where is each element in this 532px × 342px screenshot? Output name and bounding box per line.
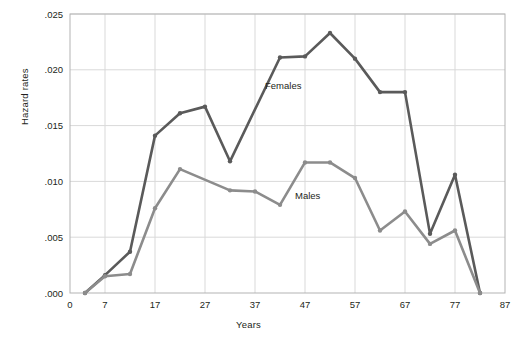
- svg-text:57: 57: [350, 299, 361, 310]
- svg-text:77: 77: [450, 299, 461, 310]
- y-tick-labels: .000.005.010.015.020.025: [45, 9, 64, 299]
- svg-text:.025: .025: [45, 9, 64, 20]
- x-tick-labels: 071727374757677787: [67, 299, 510, 310]
- plot-frame: [70, 14, 505, 293]
- svg-text:.010: .010: [45, 176, 64, 187]
- svg-text:7: 7: [102, 299, 107, 310]
- grid-lines: [70, 14, 505, 293]
- data-series: [83, 31, 482, 295]
- svg-text:.015: .015: [45, 120, 64, 131]
- svg-text:67: 67: [400, 299, 411, 310]
- svg-text:47: 47: [300, 299, 311, 310]
- svg-text:.005: .005: [45, 232, 64, 243]
- svg-text:.020: .020: [45, 64, 64, 75]
- chart-plot: 071727374757677787 .000.005.010.015.020.…: [0, 0, 532, 342]
- svg-text:17: 17: [150, 299, 161, 310]
- svg-text:0: 0: [67, 299, 72, 310]
- svg-text:37: 37: [250, 299, 261, 310]
- series-label-females: Females: [265, 80, 302, 91]
- y-axis-title: Hazard rates: [19, 68, 30, 125]
- x-axis-title: Years: [236, 319, 261, 330]
- hazard-rates-chart-figure: 071727374757677787 .000.005.010.015.020.…: [0, 0, 532, 342]
- svg-text:87: 87: [500, 299, 511, 310]
- series-label-males: Males: [295, 190, 321, 201]
- svg-text:.000: .000: [45, 288, 64, 299]
- svg-text:27: 27: [200, 299, 211, 310]
